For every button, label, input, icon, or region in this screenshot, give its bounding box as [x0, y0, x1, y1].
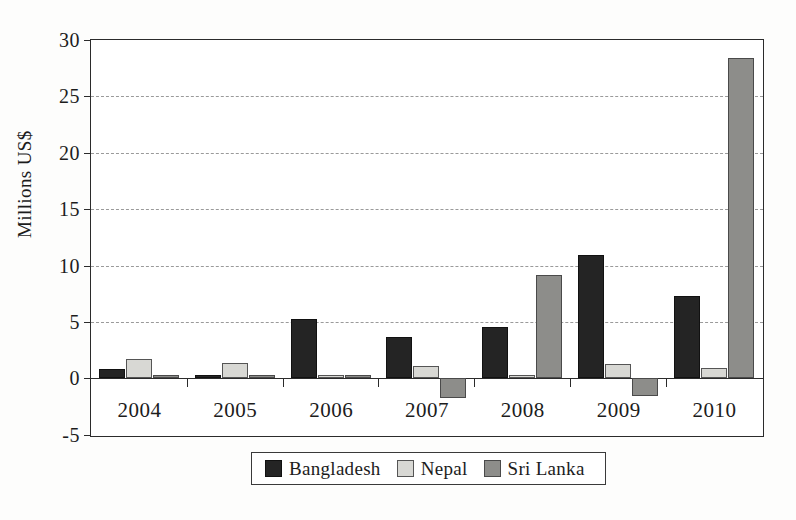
bar-bangladesh-2004: [99, 369, 125, 378]
x-axis-label-2008: 2008: [501, 398, 545, 423]
x-axis-tick: [570, 378, 571, 387]
y-axis-tick: [84, 322, 91, 323]
x-axis-label-2005: 2005: [213, 398, 257, 423]
bar-nepal-2004: [126, 359, 152, 378]
chart-legend: BangladeshNepalSri Lanka: [251, 452, 606, 485]
y-axis-tick: [84, 96, 91, 97]
chart-page: Millions US$ 302520151050-5 200420052006…: [0, 0, 796, 520]
legend-swatch-icon: [265, 460, 282, 477]
bar-sri-lanka-2004: [153, 375, 179, 378]
legend-entry-bangladesh[interactable]: Bangladesh: [265, 458, 381, 480]
y-axis-tick-label: 25: [59, 85, 80, 108]
legend-label: Nepal: [421, 458, 468, 480]
gridline: [91, 266, 763, 267]
x-axis-label-2004: 2004: [118, 398, 162, 423]
y-axis-tick-label: 5: [70, 311, 81, 334]
bar-bangladesh-2007: [386, 337, 412, 379]
gridline: [91, 153, 763, 154]
y-axis-tick: [84, 209, 91, 210]
y-axis-tick-label: 30: [59, 29, 80, 52]
y-axis-tick: [84, 266, 91, 267]
x-axis-tick: [378, 378, 379, 387]
bar-nepal-2008: [509, 375, 535, 378]
bar-nepal-2006: [318, 375, 344, 378]
y-axis-tick: [84, 378, 91, 379]
gridline: [91, 96, 763, 97]
y-axis-tick: [84, 40, 91, 41]
bar-nepal-2005: [222, 363, 248, 379]
legend-swatch-icon: [397, 460, 414, 477]
bar-sri-lanka-2008: [536, 275, 562, 379]
y-axis-tick-label: 20: [59, 141, 80, 164]
bar-sri-lanka-2007: [440, 378, 466, 397]
bar-bangladesh-2009: [578, 255, 604, 378]
bar-nepal-2009: [605, 364, 631, 379]
y-axis-tick: [84, 435, 91, 436]
y-axis-tick-label: -5: [62, 423, 80, 446]
bar-sri-lanka-2005: [249, 375, 275, 378]
legend-entry-sri-lanka[interactable]: Sri Lanka: [484, 458, 585, 480]
bar-nepal-2010: [701, 368, 727, 378]
bar-bangladesh-2008: [482, 327, 508, 379]
plot-inner: 302520151050-5: [91, 40, 763, 436]
bar-bangladesh-2010: [674, 296, 700, 378]
y-axis-tick-label: 10: [59, 254, 80, 277]
gridline: [91, 322, 763, 323]
legend-entry-nepal[interactable]: Nepal: [397, 458, 468, 480]
bar-sri-lanka-2006: [345, 375, 371, 378]
x-axis-tick: [474, 378, 475, 387]
y-axis-title: Millions US$: [14, 130, 36, 238]
y-axis-tick-label: 0: [70, 367, 81, 390]
x-axis-label-2007: 2007: [405, 398, 449, 423]
bar-bangladesh-2005: [195, 375, 221, 378]
bar-sri-lanka-2010: [728, 58, 754, 378]
legend-label: Sri Lanka: [508, 458, 585, 480]
bar-nepal-2007: [413, 366, 439, 378]
x-axis-label-2009: 2009: [597, 398, 641, 423]
zero-baseline: [91, 378, 763, 379]
x-axis-tick: [666, 378, 667, 387]
x-axis-tick: [187, 378, 188, 387]
legend-label: Bangladesh: [289, 458, 381, 480]
legend-swatch-icon: [484, 460, 501, 477]
y-axis-tick: [84, 153, 91, 154]
plot-area: 302520151050-5: [90, 39, 764, 437]
bar-bangladesh-2006: [291, 319, 317, 379]
x-axis-label-2010: 2010: [692, 398, 736, 423]
x-axis-tick: [283, 378, 284, 387]
gridline: [91, 209, 763, 210]
bar-sri-lanka-2009: [632, 378, 658, 396]
y-axis-tick-label: 15: [59, 198, 80, 221]
x-axis-label-2006: 2006: [309, 398, 353, 423]
